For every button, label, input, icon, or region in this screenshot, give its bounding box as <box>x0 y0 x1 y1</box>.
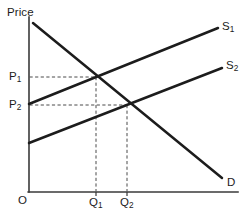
curve-label-d: D <box>227 177 235 189</box>
curve-label-s1-subscript: 1 <box>230 25 235 34</box>
quantity-label-q1: Q1 <box>89 197 103 209</box>
price-label-p2-subscript: 2 <box>17 103 22 112</box>
price-label-p1-subscript: 1 <box>17 75 22 84</box>
price-label-p1: P1 <box>9 71 21 83</box>
curve-label-s1: S1 <box>222 21 234 33</box>
y-axis-title: Price <box>7 7 34 19</box>
curve-label-s1-base: S <box>222 20 230 32</box>
curve-label-s2-subscript: 2 <box>234 64 239 73</box>
quantity-label-q1-base: Q <box>89 196 98 208</box>
curve-label-s2: S2 <box>226 60 238 72</box>
price-label-p1-base: P <box>9 70 17 82</box>
quantity-label-q2-base: Q <box>120 196 129 208</box>
supply-curve-s1 <box>29 28 218 104</box>
supply-demand-chart: Price O P1 P2 Q1 Q2 S1 S2 D <box>0 0 245 218</box>
demand-curve-d <box>33 23 222 178</box>
quantity-label-q1-subscript: 1 <box>98 201 103 210</box>
price-label-p2-base: P <box>9 98 17 110</box>
price-label-p2: P2 <box>9 99 21 111</box>
quantity-label-q2: Q2 <box>120 197 134 209</box>
origin-label: O <box>18 195 27 207</box>
quantity-label-q2-subscript: 2 <box>129 201 134 210</box>
chart-canvas <box>0 0 245 218</box>
curve-label-s2-base: S <box>226 59 234 71</box>
